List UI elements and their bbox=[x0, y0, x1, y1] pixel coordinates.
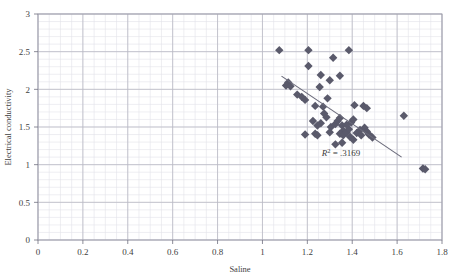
chart-canvas: 00.20.40.60.811.21.41.61.8 00.511.522.53… bbox=[0, 0, 454, 280]
x-tick-label: 1.2 bbox=[302, 247, 313, 257]
data-point bbox=[338, 139, 346, 147]
scatter-chart: 00.20.40.60.811.21.41.61.8 00.511.522.53… bbox=[0, 0, 454, 280]
data-point bbox=[336, 72, 344, 80]
y-tick-label: 1 bbox=[26, 160, 31, 170]
data-point bbox=[301, 130, 309, 138]
x-tick-label: 0.4 bbox=[122, 247, 134, 257]
x-tick-label: 0.2 bbox=[77, 247, 88, 257]
x-tick-label: 1.6 bbox=[391, 247, 403, 257]
x-tick-label: 1 bbox=[260, 247, 265, 257]
x-tick-label: 1.4 bbox=[347, 247, 359, 257]
y-tick-label: 2.5 bbox=[19, 47, 31, 57]
y-axis-title: Electrical conductivity bbox=[3, 88, 13, 166]
x-tick-label: 0.8 bbox=[212, 247, 224, 257]
x-axis-tick-labels: 00.20.40.60.811.21.41.61.8 bbox=[36, 247, 448, 257]
x-axis-title: Saline bbox=[229, 264, 250, 274]
data-point bbox=[311, 102, 319, 110]
y-axis-tick-labels: 00.511.522.53 bbox=[19, 9, 31, 245]
data-point bbox=[317, 71, 325, 79]
y-tick-label: 1.5 bbox=[19, 122, 31, 132]
y-tick-label: 3 bbox=[26, 9, 31, 19]
data-point bbox=[323, 94, 331, 102]
x-tick-label: 0.6 bbox=[167, 247, 179, 257]
r-squared-annotation: R2 = .3169 bbox=[321, 146, 361, 158]
data-point bbox=[350, 101, 358, 109]
data-point bbox=[275, 46, 283, 54]
y-tick-label: 0.5 bbox=[19, 198, 31, 208]
data-point bbox=[400, 112, 408, 120]
x-tick-label: 1.8 bbox=[436, 247, 448, 257]
data-point bbox=[345, 46, 353, 54]
data-point bbox=[315, 83, 323, 91]
x-tick-label: 0 bbox=[36, 247, 41, 257]
data-point bbox=[326, 76, 334, 84]
axis-ticks bbox=[34, 14, 442, 244]
data-point bbox=[329, 53, 337, 61]
y-tick-label: 2 bbox=[26, 85, 31, 95]
y-tick-label: 0 bbox=[26, 235, 31, 245]
data-point bbox=[304, 46, 312, 54]
data-point bbox=[304, 62, 312, 70]
